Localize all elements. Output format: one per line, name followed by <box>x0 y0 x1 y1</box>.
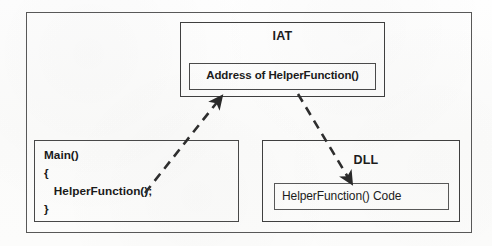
main-program-code: Main() { HelperFunction(); } <box>44 146 234 218</box>
code-line-main-signature: Main() <box>44 146 234 164</box>
dll-code-label: HelperFunction() Code <box>282 190 401 202</box>
dll-title: DLL <box>320 154 412 167</box>
iat-entry-label: Address of HelperFunction() <box>189 70 376 82</box>
diagram-canvas: IAT Address of HelperFunction() Main() {… <box>0 0 492 246</box>
code-line-helper-call: HelperFunction(); <box>44 182 234 200</box>
iat-title: IAT <box>180 30 385 43</box>
code-line-close-brace: } <box>44 200 234 218</box>
code-line-open-brace: { <box>44 164 234 182</box>
